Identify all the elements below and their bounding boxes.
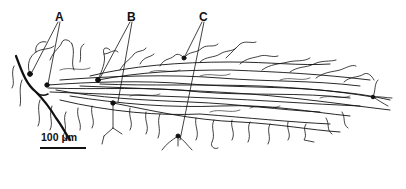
scale-bar xyxy=(40,147,86,149)
label-c: C xyxy=(199,11,208,23)
scale-bar-label: 100 μm xyxy=(41,131,77,143)
label-a: A xyxy=(55,11,64,23)
label-b: B xyxy=(127,11,136,23)
neuron-figure: A B C 100 μm xyxy=(0,0,406,189)
dendrite-drawing xyxy=(0,0,406,189)
